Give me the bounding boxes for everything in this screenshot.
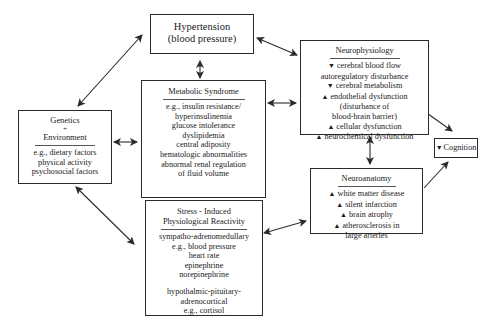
plus-sign: + [19, 126, 111, 133]
down-arrow-icon: ▼ [436, 144, 443, 154]
metabolic-item: glucose intolerance [142, 121, 265, 131]
neurophysiology-title: Neurophysiology [301, 46, 428, 56]
neurophysiology-item: ▲cellular dysfunction [301, 122, 428, 133]
stress-item: e.g., blood pressure [146, 242, 262, 252]
stress-item: hypothalmic-pituitary- [146, 287, 262, 297]
up-arrow-icon: ▲ [340, 211, 347, 221]
stress-title: Stress - Induced [146, 207, 262, 217]
hypertension-subtitle: (blood pressure) [151, 33, 253, 45]
neurophysiology-item: ▲neurochemical dysfunction [301, 132, 428, 143]
stress-item: sympatho-adrenomedullary [146, 232, 262, 242]
down-arrow-icon: ▼ [328, 62, 335, 72]
divider [163, 99, 245, 100]
metabolic-item: central adiposity [142, 140, 265, 150]
neuroanatomy-item: ▲silent infarction [311, 200, 422, 211]
metabolic-item: hyperinsulinemia [142, 112, 265, 122]
stress-item: heart rate [146, 251, 262, 261]
metabolic-item: abnormal renal regulation [142, 160, 265, 170]
cognition-label: ▼Cognition [435, 143, 477, 154]
divider [35, 145, 95, 146]
neurophysiology-box: Neurophysiology ▼cerebral blood flow aut… [300, 40, 429, 135]
genetics-item: physical activity [19, 158, 111, 168]
stress-item: e.g., cortisol [146, 306, 262, 316]
stress-reactivity-box: Stress - Induced Physiological Reactivit… [145, 200, 263, 316]
neurophysiology-item: (disturbance of [301, 102, 428, 112]
environment-title: Environment [19, 133, 111, 143]
divider [161, 229, 247, 230]
genetics-environment-box: Genetics + Environment e.g., dietary fac… [18, 110, 112, 184]
genetics-item: psychosocial factors [19, 167, 111, 177]
metabolic-item: hematologic abnormalities [142, 150, 265, 160]
metabolic-syndrome-title: Metabolic Syndrome [142, 87, 265, 97]
stress-item: adrenocortical [146, 297, 262, 307]
neuroanatomy-title: Neuroanatomy [311, 174, 422, 184]
stress-item: epinephrine [146, 261, 262, 271]
metabolic-item: of fluid volume [142, 169, 265, 179]
metabolic-item: e.g., insulin resistance/ [142, 102, 265, 112]
hypertension-box: Hypertension (blood pressure) [150, 14, 254, 54]
neuroanatomy-item: large arteries [311, 231, 422, 241]
genetics-item: e.g., dietary factors [19, 148, 111, 158]
hypertension-title: Hypertension [151, 21, 253, 33]
neuroanatomy-item: ▲atherosclerosis in [311, 221, 422, 232]
divider [338, 186, 396, 187]
neuroanatomy-item: ▲brain atrophy [311, 210, 422, 221]
neurophysiology-item: blood-brain barrier) [301, 112, 428, 122]
neurophysiology-item: ▼cerebral metabolism [301, 81, 428, 92]
stress-item: norepinephrine [146, 270, 262, 280]
metabolic-syndrome-box: Metabolic Syndrome e.g., insulin resista… [141, 80, 266, 198]
down-arrow-icon: ▼ [327, 82, 334, 92]
up-arrow-icon: ▲ [316, 133, 323, 143]
neurophysiology-item: autoregulatory disturbance [301, 72, 428, 82]
up-arrow-icon: ▲ [329, 190, 336, 200]
spacer [146, 280, 262, 287]
up-arrow-icon: ▲ [321, 93, 328, 103]
divider [330, 58, 400, 59]
up-arrow-icon: ▲ [336, 201, 343, 211]
stress-subtitle: Physiological Reactivity [146, 217, 262, 227]
metabolic-item: dyslipidemia [142, 131, 265, 141]
neurophysiology-item: ▼cerebral blood flow [301, 61, 428, 72]
cognition-box: ▼Cognition [434, 138, 478, 158]
neuroanatomy-item: ▲white matter disease [311, 189, 422, 200]
up-arrow-icon: ▲ [327, 123, 334, 133]
neuroanatomy-box: Neuroanatomy ▲white matter disease ▲sile… [310, 168, 423, 234]
up-arrow-icon: ▲ [333, 222, 340, 232]
neurophysiology-item: ▲endothelial dysfunction [301, 92, 428, 103]
